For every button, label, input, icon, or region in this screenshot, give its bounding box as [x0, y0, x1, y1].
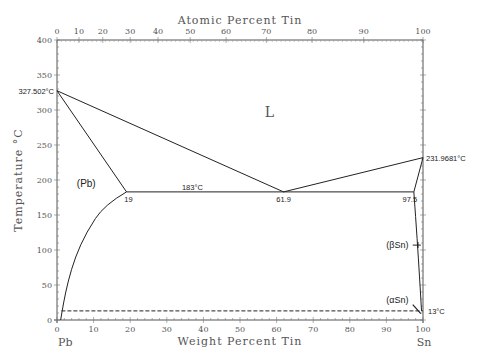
plot-axes	[54, 40, 423, 323]
y-tick-label: 0	[47, 316, 52, 325]
annotation-label: 183°C	[182, 183, 204, 192]
x-tick-label: 70	[308, 325, 318, 334]
annotation-label: 19	[124, 195, 132, 204]
x-tick-label: 80	[345, 325, 355, 334]
phase-diagram: 0501001502002503003504000102030405060708…	[0, 0, 479, 363]
annotation-label: (αSn)	[386, 295, 408, 305]
x-tick-label: 10	[89, 325, 99, 334]
x-tick-label: 90	[381, 325, 391, 334]
annotation-label: L	[265, 104, 274, 120]
x2-tick-label: 60	[221, 27, 231, 36]
x-tick-label: 40	[198, 325, 208, 334]
y-axis-title: Temperature °C	[12, 128, 25, 231]
x2-tick-label: 80	[307, 27, 317, 36]
alpha-sn-pointer	[413, 305, 421, 314]
x2-tick-label: 40	[153, 27, 163, 36]
x-tick-label: 30	[162, 325, 172, 334]
boundary-solvus-sn	[414, 192, 422, 311]
x2-tick-label: 50	[185, 27, 195, 36]
x2-tick-label: 20	[98, 27, 108, 36]
y-tick-label: 400	[37, 36, 52, 45]
right-element-label: Sn	[417, 336, 432, 349]
x2-axis-title: Atomic Percent Tin	[177, 14, 303, 27]
annotation-label: 327.502°C	[18, 87, 54, 96]
boundary-liquidus-left	[57, 91, 284, 192]
y-tick-label: 250	[37, 141, 52, 150]
x-axis-title: Weight Percent Tin	[178, 335, 303, 348]
y-tick-label: 200	[37, 176, 52, 185]
y-tick-label: 50	[42, 281, 52, 290]
axis-ticks: 0501001502002503003504000102030405060708…	[37, 27, 431, 334]
x2-tick-label: 10	[74, 27, 84, 36]
annotation-label: 231.9681°C	[426, 154, 466, 163]
annotation-label: (βSn)	[386, 240, 408, 250]
annotation-label: 13°C	[428, 307, 445, 316]
x2-tick-label: 30	[125, 27, 135, 36]
phase-boundaries	[57, 91, 423, 320]
x2-tick-label: 0	[54, 27, 59, 36]
x-tick-label: 60	[272, 325, 282, 334]
annotation-label: 97.5	[403, 195, 418, 204]
y-tick-label: 350	[37, 71, 52, 80]
annotation-label: (Pb)	[77, 178, 96, 189]
y-tick-label: 100	[37, 246, 52, 255]
annotations: 327.502°C231.9681°C183°C1961.997.513°CL(…	[18, 87, 466, 316]
boundary-solvus-pb	[61, 192, 127, 320]
x2-tick-label: 70	[261, 27, 271, 36]
x-tick-label: 50	[235, 325, 245, 334]
boundary-liquidus-right	[284, 158, 423, 192]
x2-tick-label: 100	[415, 27, 430, 36]
y-tick-label: 150	[37, 211, 52, 220]
x-tick-label: 0	[54, 325, 59, 334]
x2-tick-label: 90	[359, 27, 369, 36]
x-tick-label: 100	[415, 325, 430, 334]
x-tick-label: 20	[125, 325, 135, 334]
y-tick-label: 300	[37, 106, 52, 115]
left-element-label: Pb	[58, 336, 72, 349]
annotation-label: 61.9	[276, 195, 291, 204]
